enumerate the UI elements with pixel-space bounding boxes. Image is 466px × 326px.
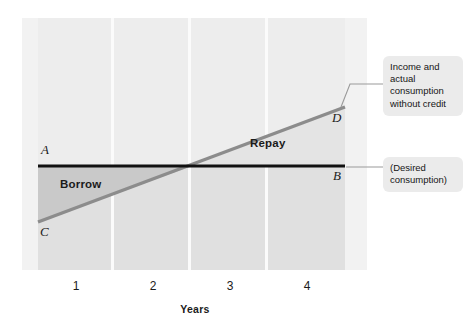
point-label-a: A: [41, 142, 49, 158]
income-callout-leader: [341, 84, 383, 107]
x-tick-2: 2: [140, 279, 166, 293]
x-axis-title: Years: [0, 303, 390, 315]
point-label-b: B: [333, 168, 341, 184]
callout-income-consumption: Income and actual consumption without cr…: [383, 56, 463, 116]
x-tick-1: 1: [63, 279, 89, 293]
x-tick-4: 4: [294, 279, 320, 293]
point-label-c: C: [40, 224, 49, 240]
chart-figure: A B C D Borrow Repay 1 2 3 4 Years Incom…: [0, 0, 466, 326]
callout-desired-consumption: (Desired consumption): [383, 157, 463, 192]
x-tick-3: 3: [217, 279, 243, 293]
region-label-borrow: Borrow: [60, 178, 101, 190]
region-label-repay: Repay: [250, 137, 286, 149]
point-label-d: D: [332, 110, 342, 126]
